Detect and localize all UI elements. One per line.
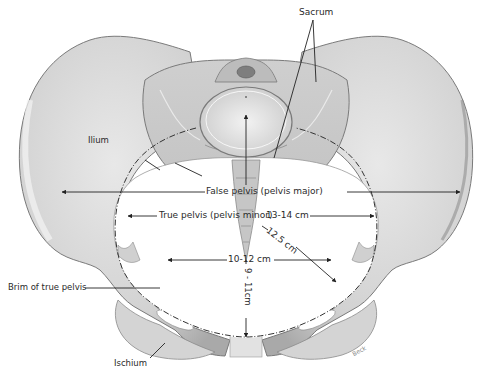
true-pelvis-label: True pelvis (pelvis minor)	[159, 211, 272, 220]
vertebral-canal	[237, 66, 255, 78]
pubic-symphysis	[230, 335, 262, 357]
ischium-label: Ischium	[114, 359, 147, 368]
ilium-label: Ilium	[88, 136, 109, 145]
false-pelvis-label: False pelvis (pelvis major)	[206, 187, 323, 196]
brim-label: Brim of true pelvis	[8, 283, 87, 292]
transverse-diameter-label: 13-14 cm	[266, 211, 309, 220]
interspinous-diameter-label: 10-12 cm	[228, 255, 271, 264]
sacrum-label: Sacrum	[299, 8, 333, 17]
ap-diameter-label: 9 - 11cm	[244, 268, 253, 306]
